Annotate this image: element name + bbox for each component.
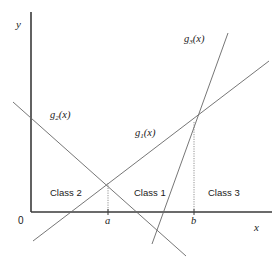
tick-label-a: a (105, 216, 110, 227)
label-g3: g3(x) (184, 34, 204, 45)
y-axis-label: y (16, 19, 21, 30)
x-axis-label: x (254, 222, 259, 233)
label-g2-subscript: 2 (55, 114, 59, 122)
region-label-class-2: Class 2 (50, 188, 82, 198)
origin-label: 0 (18, 216, 24, 226)
label-g3-subscript: 3 (189, 38, 193, 46)
discriminant-function-figure: y x 0 a b g2(x) g1(x) g3(x) Class 2 Clas… (0, 0, 280, 268)
label-g3-arg: (x) (193, 33, 205, 44)
tick-label-b: b (191, 216, 196, 227)
label-g1-arg: (x) (144, 127, 156, 138)
label-g1: g1(x) (135, 128, 155, 139)
region-label-class-1: Class 1 (134, 188, 166, 198)
label-g2: g2(x) (50, 110, 70, 121)
label-g2-arg: (x) (59, 109, 71, 120)
region-label-class-3: Class 3 (208, 188, 240, 198)
line-g2 (13, 102, 186, 256)
label-g1-subscript: 1 (140, 132, 144, 140)
